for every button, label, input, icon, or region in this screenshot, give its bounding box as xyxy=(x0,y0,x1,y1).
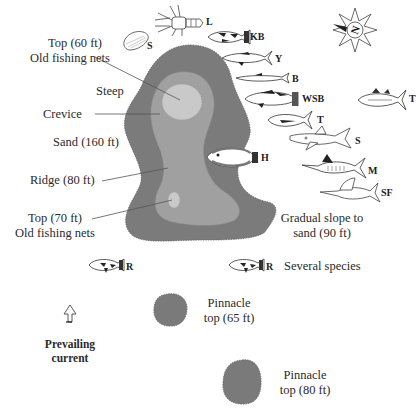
sailfish-icon xyxy=(320,178,380,202)
species-label-h: H xyxy=(261,152,269,163)
up-arrow-icon xyxy=(64,305,76,322)
species-label-s-shell: S xyxy=(147,40,153,51)
species-label-t-right: T xyxy=(409,93,416,104)
species-label-l: L xyxy=(206,16,213,27)
fish-icon-b xyxy=(236,73,289,83)
species-label-r-right: R xyxy=(266,261,273,272)
species-label-y: Y xyxy=(275,53,282,64)
reef-top-70ft xyxy=(168,192,180,208)
pinnacle-65-line2: top (65 ft) xyxy=(196,311,262,326)
marlin-icon xyxy=(302,154,366,178)
fish-icon-r-right xyxy=(229,259,264,273)
label-top60-line2: Old fishing nets xyxy=(20,51,120,66)
reef-top-60ft xyxy=(162,84,202,120)
label-sand: Sand (160 ft) xyxy=(53,135,119,150)
current-line2: current xyxy=(40,351,100,365)
label-slope-line1: Gradual slope to xyxy=(270,211,374,226)
label-top-60ft: Top (60 ft) Old fishing nets xyxy=(30,36,120,66)
label-pinnacle-80: Pinnacle top (80 ft) xyxy=(272,368,338,398)
fish-icon-kb xyxy=(208,30,250,44)
label-top-70ft: Top (70 ft) Old fishing nets xyxy=(12,211,98,241)
current-line1: Prevailing xyxy=(40,337,100,351)
lobster-icon xyxy=(155,5,203,36)
fish-icon-r-left xyxy=(89,259,124,273)
scallop-shell-icon xyxy=(124,31,148,50)
tuna-icon xyxy=(268,111,312,129)
label-prevailing-current: Prevailing current xyxy=(40,337,100,365)
compass-rose-icon: N xyxy=(333,8,377,52)
species-label-s-shark: S xyxy=(355,135,361,146)
species-label-t: T xyxy=(317,114,324,125)
pinnacle-65ft xyxy=(154,294,187,326)
pinnacle-65-line1: Pinnacle xyxy=(196,296,262,311)
label-gradual-slope: Gradual slope to sand (90 ft) xyxy=(270,211,374,241)
label-steep: Steep xyxy=(96,84,124,99)
pinnacle-80ft xyxy=(223,360,261,404)
species-label-r-left: R xyxy=(126,261,133,272)
pinnacle-80-line1: Pinnacle xyxy=(272,368,338,383)
pinnacle-80-line2: top (80 ft) xyxy=(272,383,338,398)
label-slope-line2: sand (90 ft) xyxy=(270,226,374,241)
label-several-species: Several species xyxy=(284,259,361,274)
fish-icon-y xyxy=(222,51,272,66)
species-label-b: B xyxy=(292,73,299,84)
label-top60-line1: Top (60 ft) xyxy=(30,36,120,51)
species-label-wsb: WSB xyxy=(302,93,324,104)
label-crevice: Crevice xyxy=(43,107,82,122)
fish-icon-wsb xyxy=(245,90,298,108)
flounder-icon xyxy=(207,148,258,167)
label-top70-line2: Old fishing nets xyxy=(12,226,98,241)
species-label-m: M xyxy=(368,165,377,176)
label-top70-line1: Top (70 ft) xyxy=(12,211,98,226)
label-pinnacle-65: Pinnacle top (65 ft) xyxy=(196,296,262,326)
shark-icon xyxy=(290,126,351,150)
species-label-kb: KB xyxy=(250,31,264,42)
species-label-sf: SF xyxy=(381,187,393,198)
label-ridge: Ridge (80 ft) xyxy=(30,173,95,188)
tuna-icon-right xyxy=(358,88,406,110)
